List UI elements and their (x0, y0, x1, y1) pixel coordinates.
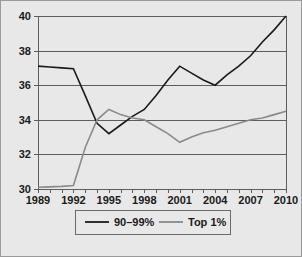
y-tick-label-36: 36 (19, 79, 31, 91)
x-tick-label-2007: 2007 (238, 194, 262, 206)
x-tick-label-1998: 1998 (132, 194, 156, 206)
line-chart: 303234363840 198919921995199820012004200… (1, 1, 302, 257)
x-tick-label-2004: 2004 (203, 194, 228, 206)
x-tick-label-2010: 2010 (274, 194, 298, 206)
y-axis-ticks (34, 17, 38, 190)
x-tick-label-2001: 2001 (167, 194, 191, 206)
y-tick-label-34: 34 (19, 114, 32, 126)
legend-label-1: Top 1% (188, 216, 227, 228)
legend-label-0: 90–99% (114, 216, 155, 228)
x-axis-tick-labels: 19891992199519982001200420072010 (26, 194, 298, 206)
y-tick-label-40: 40 (19, 10, 31, 22)
y-tick-label-32: 32 (19, 148, 31, 160)
chart-figure: 303234363840 198919921995199820012004200… (0, 0, 302, 257)
x-tick-label-1992: 1992 (61, 194, 85, 206)
plot-background (38, 16, 286, 189)
chart-legend: 90–99%Top 1% (76, 211, 231, 235)
x-tick-label-1995: 1995 (97, 194, 121, 206)
y-axis-tick-labels: 303234363840 (19, 10, 32, 195)
x-tick-label-1989: 1989 (26, 194, 50, 206)
y-tick-label-38: 38 (19, 45, 31, 57)
